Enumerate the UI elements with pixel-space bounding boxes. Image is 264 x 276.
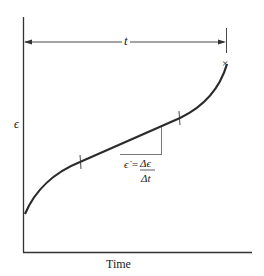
segment-tick-end xyxy=(179,111,180,125)
rupture-marker: × xyxy=(222,58,228,69)
rate-formula-denominator: Δt xyxy=(141,172,151,184)
creep-curve xyxy=(25,64,227,214)
segment-tick-start xyxy=(80,155,81,169)
arrow-left-icon xyxy=(24,40,32,45)
creep-curve-diagram xyxy=(0,0,264,276)
y-axis-label: ϵ xyxy=(14,118,19,130)
duration-label: t xyxy=(122,34,130,48)
arrow-right-icon xyxy=(218,40,226,45)
x-axis-label: Time xyxy=(106,257,131,271)
rate-formula-numerator: Δϵ xyxy=(140,157,151,169)
rate-formula-lhs: ϵ̇ = xyxy=(124,158,139,170)
